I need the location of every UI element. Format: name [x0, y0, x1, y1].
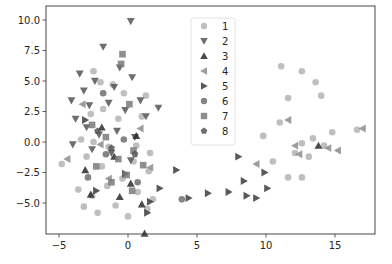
x-tick-label: 5	[194, 240, 200, 251]
y-tick-label: −2.5	[16, 167, 40, 178]
data-point-series-1-circle-marker-icon	[354, 127, 361, 134]
legend-label: 4	[222, 66, 228, 77]
data-point-series-5-triangle_right-marker-icon	[93, 187, 100, 195]
data-point-series-1-circle-marker-icon	[97, 79, 104, 86]
data-point-series-3-triangle_up-marker-icon	[138, 200, 146, 207]
data-point-series-1-circle-marker-icon	[278, 63, 285, 70]
data-point-series-5-triangle_right-marker-icon	[186, 194, 193, 202]
data-point-series-2-triangle_down-marker-icon	[80, 88, 88, 95]
data-point-series-1-circle-marker-icon	[285, 95, 292, 102]
data-point-series-7-square-marker-icon	[140, 162, 147, 169]
data-point-series-7-square-marker-icon	[115, 156, 122, 163]
data-point-series-4-triangle_left-marker-icon	[334, 147, 341, 155]
data-point-series-5-triangle_right-marker-icon	[205, 189, 212, 197]
data-point-series-1-circle-marker-icon	[83, 153, 90, 160]
data-point-series-1-circle-marker-icon	[260, 133, 267, 140]
data-point-series-1-circle-marker-icon	[81, 203, 88, 210]
data-point-series-1-circle-marker-icon	[147, 150, 154, 157]
data-point-series-6-circle-marker-icon	[134, 179, 141, 186]
data-point-series-2-triangle_down-marker-icon	[67, 97, 75, 104]
data-point-series-1-circle-marker-icon	[112, 202, 119, 209]
legend-label: 1	[222, 21, 228, 32]
y-tick-label: 7.5	[24, 45, 40, 56]
data-point-series-4-triangle_left-marker-icon	[79, 100, 86, 108]
legend-label: 6	[222, 96, 228, 107]
data-point-series-6-circle-marker-icon	[121, 136, 128, 143]
data-point-series-1-circle-marker-icon	[121, 90, 128, 97]
data-point-series-1-circle-marker-icon	[90, 68, 97, 75]
data-point-series-1-circle-marker-icon	[87, 111, 94, 118]
data-point-series-1-circle-marker-icon	[115, 116, 122, 123]
data-point-series-1-circle-marker-icon	[285, 174, 292, 181]
legend-label: 7	[222, 111, 228, 122]
data-point-series-5-triangle_right-marker-icon	[261, 169, 268, 177]
data-point-series-5-triangle_right-marker-icon	[264, 184, 271, 192]
data-point-series-6-circle-marker-icon	[85, 174, 92, 181]
y-tick-label: 2.5	[24, 106, 40, 117]
data-point-series-3-triangle_up-marker-icon	[116, 193, 124, 200]
y-tick-label: 5.0	[24, 76, 40, 87]
legend: 12345678	[191, 18, 235, 145]
data-point-series-5-triangle_right-marker-icon	[173, 166, 180, 174]
data-point-series-1-circle-marker-icon	[270, 158, 277, 165]
data-point-series-1-circle-marker-icon	[299, 68, 306, 75]
data-point-series-1-circle-marker-icon	[329, 129, 336, 136]
data-point-series-2-triangle_down-marker-icon	[88, 146, 96, 153]
data-point-series-5-triangle_right-marker-icon	[244, 192, 251, 200]
data-point-series-4-triangle_left-marker-icon	[252, 160, 259, 168]
data-point-series-1-circle-marker-icon	[305, 153, 312, 160]
data-point-series-5-triangle_right-marker-icon	[235, 153, 242, 161]
data-point-series-1-circle-marker-icon	[100, 106, 107, 113]
data-point-series-7-square-marker-icon	[123, 172, 130, 179]
y-tick-label: −5.0	[16, 198, 40, 209]
data-point-series-7-square-marker-icon	[89, 122, 96, 129]
data-point-series-4-triangle_left-marker-icon	[63, 155, 70, 163]
data-point-series-3-triangle_up-marker-icon	[127, 180, 135, 187]
data-point-series-1-circle-marker-icon	[90, 139, 97, 146]
data-point-series-1-circle-marker-icon	[58, 161, 65, 168]
data-point-series-2-triangle_down-marker-icon	[99, 44, 107, 51]
data-point-series-1-circle-marker-icon	[299, 140, 306, 147]
data-point-series-1-circle-marker-icon	[310, 135, 317, 142]
legend-circle-icon	[201, 23, 207, 29]
data-point-series-7-square-marker-icon	[126, 101, 133, 108]
data-point-series-1-circle-marker-icon	[312, 79, 319, 86]
legend-label: 5	[222, 81, 228, 92]
data-point-series-7-square-marker-icon	[103, 134, 110, 141]
y-tick-label: 10.0	[18, 15, 40, 26]
y-tick-label: 0.0	[24, 137, 40, 148]
data-point-series-6-circle-marker-icon	[100, 90, 107, 97]
data-point-series-5-triangle_right-marker-icon	[226, 188, 233, 196]
data-point-series-1-circle-marker-icon	[277, 119, 284, 126]
data-point-series-5-triangle_right-marker-icon	[241, 177, 248, 185]
data-point-series-1-circle-marker-icon	[78, 136, 85, 143]
legend-label: 3	[222, 51, 228, 62]
data-point-series-7-square-marker-icon	[118, 61, 125, 68]
x-axis: −5051015	[52, 234, 342, 251]
data-point-series-2-triangle_down-marker-icon	[69, 141, 77, 148]
data-point-series-6-circle-marker-icon	[179, 196, 186, 203]
legend-square-icon	[201, 113, 207, 119]
data-point-series-7-square-marker-icon	[119, 51, 126, 58]
data-point-series-2-triangle_down-marker-icon	[113, 128, 121, 135]
legend-label: 8	[222, 126, 228, 137]
x-tick-label: 10	[260, 240, 273, 251]
x-tick-label: −5	[52, 240, 67, 251]
data-point-series-2-triangle_down-marker-icon	[76, 71, 84, 78]
data-point-series-7-square-marker-icon	[129, 188, 136, 195]
data-point-series-2-triangle_down-marker-icon	[128, 74, 136, 81]
data-point-series-5-triangle_right-marker-icon	[82, 116, 89, 124]
data-point-series-2-triangle_down-marker-icon	[105, 100, 113, 107]
data-point-series-5-triangle_right-marker-icon	[253, 194, 260, 202]
data-point-series-4-triangle_left-marker-icon	[284, 116, 291, 124]
data-point-series-4-triangle_left-marker-icon	[136, 125, 143, 133]
data-point-series-2-triangle_down-marker-icon	[85, 102, 93, 109]
data-point-series-1-circle-marker-icon	[318, 92, 325, 99]
scatter-chart: −5051015 10.07.55.02.50.0−2.5−5.0 123456…	[0, 0, 392, 264]
data-point-series-7-square-marker-icon	[108, 179, 115, 186]
data-point-series-7-square-marker-icon	[93, 163, 100, 170]
data-point-series-1-circle-marker-icon	[94, 209, 101, 216]
data-point-series-1-circle-marker-icon	[299, 174, 306, 181]
x-tick-label: 0	[125, 240, 131, 251]
data-point-series-3-triangle_up-marker-icon	[141, 230, 149, 237]
